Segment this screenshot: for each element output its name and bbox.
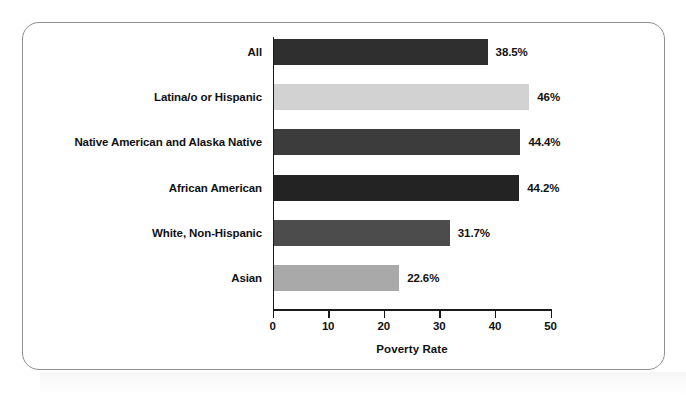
bar — [274, 129, 521, 155]
bar-row: All38.5% — [23, 39, 666, 65]
x-tick-0 — [273, 310, 275, 318]
bar — [274, 220, 450, 246]
x-tick-20 — [384, 310, 386, 318]
scan-artifact-band — [40, 372, 686, 397]
bar-value-label: 38.5% — [488, 46, 528, 58]
x-tick-10 — [328, 310, 330, 318]
bar — [274, 175, 520, 201]
category-label: Asian — [231, 272, 271, 284]
bar — [274, 84, 530, 110]
chart-frame: 01020304050 All38.5%Latina/o or Hispanic… — [22, 22, 665, 370]
x-tick-label-40: 40 — [489, 320, 501, 332]
x-axis-title: Poverty Rate — [273, 343, 552, 355]
x-tick-40 — [495, 310, 497, 318]
bar-row: White, Non-Hispanic31.7% — [23, 220, 666, 246]
bar-row: Latina/o or Hispanic46% — [23, 84, 666, 110]
x-tick-label-50: 50 — [544, 320, 556, 332]
plot-area: 01020304050 All38.5%Latina/o or Hispanic… — [23, 23, 666, 371]
bar-value-label: 44.2% — [519, 182, 559, 194]
x-tick-30 — [439, 310, 441, 318]
x-tick-label-20: 20 — [377, 320, 389, 332]
bar-row: Asian22.6% — [23, 265, 666, 291]
x-tick-label-0: 0 — [269, 320, 275, 332]
category-label: Latina/o or Hispanic — [154, 91, 271, 103]
x-tick-label-30: 30 — [433, 320, 445, 332]
bar-value-label: 46% — [529, 91, 560, 103]
x-tick-label-10: 10 — [322, 320, 334, 332]
category-label: All — [248, 46, 271, 58]
bar-value-label: 31.7% — [450, 227, 490, 239]
category-label: African American — [169, 182, 271, 194]
category-label: White, Non-Hispanic — [152, 227, 271, 239]
bar — [274, 265, 400, 291]
bar-row: Native American and Alaska Native44.4% — [23, 129, 666, 155]
bar-value-label: 44.4% — [520, 136, 560, 148]
x-tick-50 — [551, 310, 553, 318]
x-axis-line — [273, 309, 552, 311]
bar-value-label: 22.6% — [399, 272, 439, 284]
bar-row: African American44.2% — [23, 175, 666, 201]
bar — [274, 39, 488, 65]
category-label: Native American and Alaska Native — [74, 136, 271, 148]
